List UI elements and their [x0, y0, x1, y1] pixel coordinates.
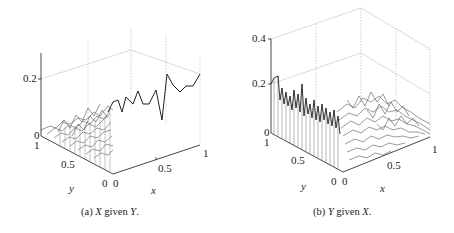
- caption-b-prefix: (b): [313, 206, 325, 217]
- caption-a-mid: given: [104, 206, 127, 217]
- y-tick-0: 0: [102, 178, 108, 189]
- y-tick-0-5: 0.5: [291, 155, 305, 166]
- y-axis-label: y: [69, 183, 74, 194]
- panel-b-y-given-x: 0.4 0.2 0 1 0.5 0 0 0.5 1 y x (b) Y give…: [227, 0, 454, 233]
- caption-b-suffix: .: [369, 206, 372, 217]
- x-tick-0-5: 0.5: [387, 160, 401, 171]
- x-axis-label: x: [151, 185, 156, 196]
- caption-a: (a) X given Y.: [81, 206, 139, 217]
- x-tick-1: 1: [432, 144, 438, 155]
- z-tick-0-2: 0.2: [23, 73, 37, 84]
- x-tick-0: 0: [113, 178, 119, 189]
- caption-a-prefix: (a): [81, 206, 93, 217]
- x-tick-0-5: 0.5: [158, 163, 172, 174]
- surface-plot-a: [0, 0, 227, 233]
- x-axis-label: x: [380, 183, 385, 194]
- caption-a-var1: X: [95, 206, 101, 217]
- caption-b: (b) Y given X.: [313, 206, 371, 217]
- y-tick-1: 1: [34, 140, 40, 151]
- y-axis-label: y: [301, 181, 306, 192]
- z-tick-0-4: 0.4: [252, 33, 266, 44]
- y-tick-0: 0: [331, 176, 337, 187]
- y-tick-0-5: 0.5: [61, 159, 75, 170]
- caption-a-suffix: .: [136, 206, 139, 217]
- x-tick-1: 1: [203, 148, 209, 159]
- x-tick-0: 0: [342, 176, 348, 187]
- y-tick-1: 1: [264, 137, 270, 148]
- panel-a-x-given-y: 0.2 0 1 0.5 0 0 0.5 1 y x (a) X given Y.: [0, 0, 227, 233]
- caption-b-var1: Y: [328, 206, 334, 217]
- caption-b-mid: given: [336, 206, 359, 217]
- z-tick-0-2: 0.2: [252, 78, 266, 89]
